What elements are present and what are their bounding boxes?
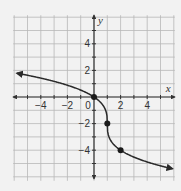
point-marker xyxy=(118,147,124,153)
x-tick-label: −2 xyxy=(62,100,74,111)
coordinate-plane: −4−224042−2−4 x y xyxy=(0,0,181,191)
x-tick-label: 4 xyxy=(144,100,150,111)
y-axis-label: y xyxy=(97,14,103,26)
y-tick-label: 2 xyxy=(84,65,90,76)
y-tick-label: 4 xyxy=(84,38,90,49)
x-axis-label: x xyxy=(165,82,171,94)
x-tick-label: 2 xyxy=(118,100,124,111)
point-marker xyxy=(104,121,110,127)
x-tick-label: −4 xyxy=(35,100,47,111)
function-curve xyxy=(17,73,173,169)
origin-label: 0 xyxy=(85,100,91,111)
y-tick-label: −4 xyxy=(79,145,91,156)
point-marker xyxy=(91,94,97,100)
y-tick-label: −2 xyxy=(79,118,91,129)
